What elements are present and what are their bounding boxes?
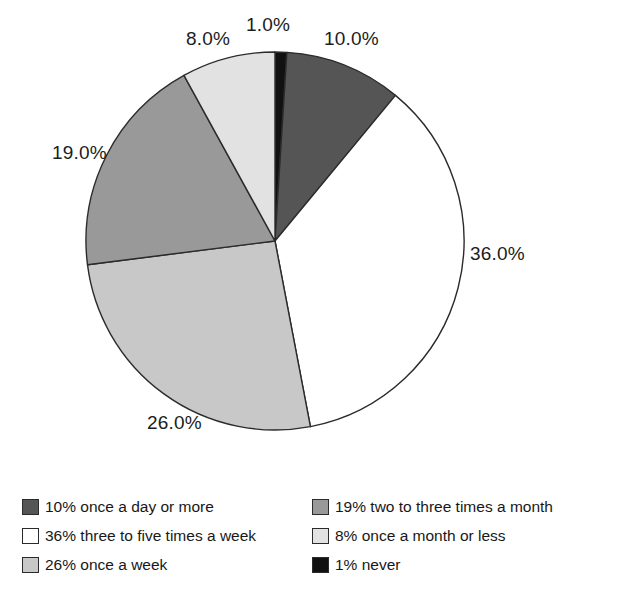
legend-item-label: 26% once a week <box>45 557 167 573</box>
legend-item[interactable]: 26% once a week <box>22 550 312 579</box>
legend-item[interactable]: 36% three to five times a week <box>22 521 312 550</box>
slice-label-8: 8.0% <box>186 28 230 50</box>
swatch-black <box>312 557 329 573</box>
pie-plot-area: 8.0% 1.0% 10.0% 36.0% 26.0% 19.0% <box>0 0 625 462</box>
swatch-pale-gray <box>312 528 329 544</box>
pie-svg <box>0 0 625 462</box>
legend-item-label: 19% two to three times a month <box>335 499 553 515</box>
legend-item[interactable]: 19% two to three times a month <box>312 492 602 521</box>
legend-item-label: 8% once a month or less <box>335 528 506 544</box>
pie-slice-group <box>86 52 464 430</box>
legend-item-label: 10% once a day or more <box>45 499 214 515</box>
pie-chart-figure: 8.0% 1.0% 10.0% 36.0% 26.0% 19.0% 10% on… <box>0 0 625 600</box>
swatch-white <box>22 528 39 544</box>
legend-item[interactable]: 10% once a day or more <box>22 492 312 521</box>
slice-label-36: 36.0% <box>470 243 525 265</box>
legend-column-left: 10% once a day or more36% three to five … <box>22 492 312 579</box>
legend-item[interactable]: 8% once a month or less <box>312 521 602 550</box>
legend-item-label: 1% never <box>335 557 400 573</box>
legend-item[interactable]: 1% never <box>312 550 602 579</box>
swatch-dark-gray <box>22 499 39 515</box>
legend-column-right: 19% two to three times a month8% once a … <box>312 492 602 579</box>
slice-label-19: 19.0% <box>52 142 107 164</box>
swatch-medium-gray <box>312 499 329 515</box>
pie-slice <box>87 241 310 430</box>
slice-label-10: 10.0% <box>324 28 379 50</box>
slice-label-26: 26.0% <box>147 412 202 434</box>
slice-label-1: 1.0% <box>246 14 290 36</box>
swatch-light-gray <box>22 557 39 573</box>
legend-item-label: 36% three to five times a week <box>45 528 256 544</box>
chart-legend: 10% once a day or more36% three to five … <box>22 492 602 588</box>
